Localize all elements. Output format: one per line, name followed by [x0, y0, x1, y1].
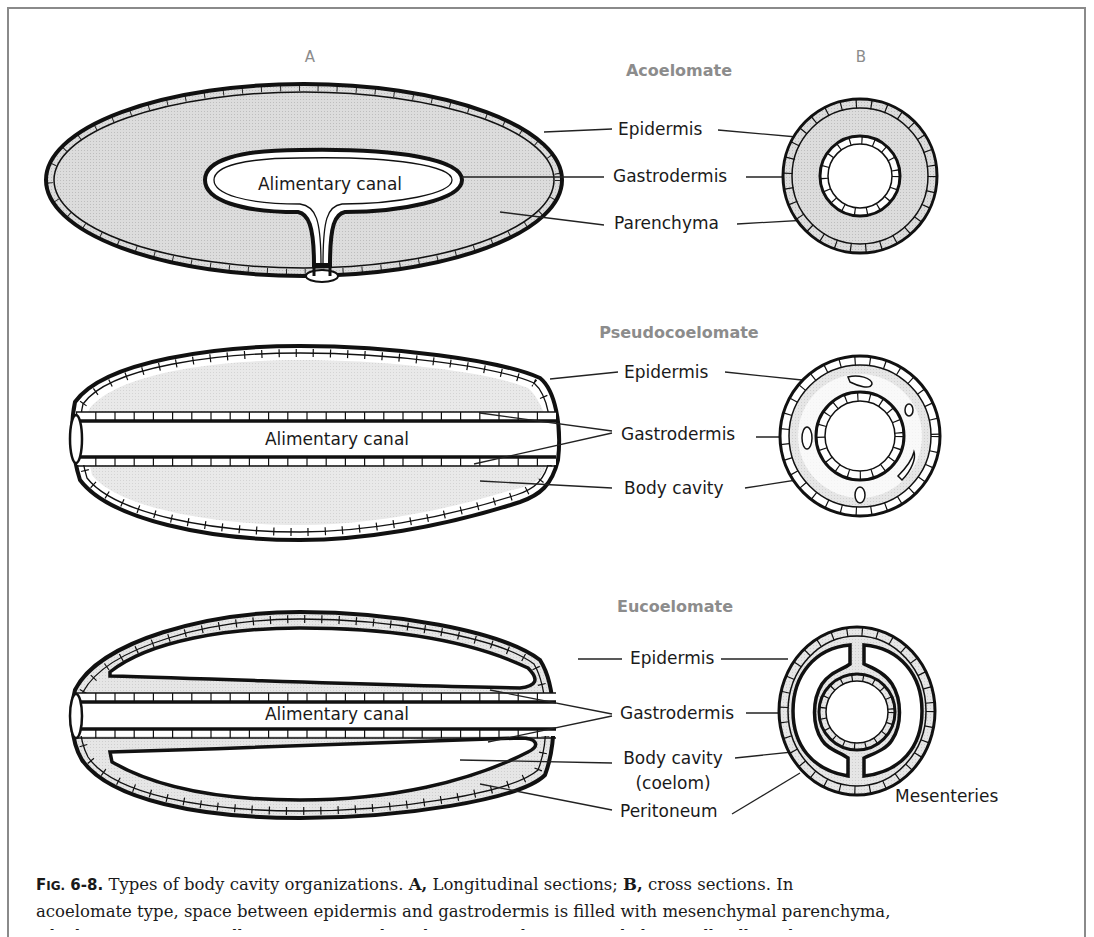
- figure-caption: FIG. 6-8. Types of body cavity organizat…: [36, 872, 1066, 930]
- section-title-eucoelomate: Eucoelomate: [617, 597, 733, 616]
- section-title-pseudocoelomate: Pseudocoelomate: [599, 323, 759, 342]
- label-gastrodermis-pseudocoelomate: Gastrodermis: [621, 424, 735, 444]
- caption-text-2: Longitudinal sections;: [427, 875, 623, 894]
- label-epidermis-acoelomate: Epidermis: [618, 119, 702, 139]
- label-body-cavity-pseudocoelomate: Body cavity: [624, 478, 724, 498]
- label-alimentary-canal-acoelomate: Alimentary canal: [258, 174, 402, 194]
- caption-line-3-partial: which may contain small spaces in some b…: [36, 924, 1066, 930]
- label-epidermis-eucoelomate: Epidermis: [630, 648, 714, 668]
- acoelomate-section: Acoelomate Alimentary canal Epidermis Ga…: [46, 61, 937, 282]
- fig-prefix: F: [36, 876, 46, 894]
- label-alimentary-canal-pseudocoelomate: Alimentary canal: [265, 429, 409, 449]
- acoelomate-longitudinal: Alimentary canal: [46, 84, 562, 282]
- label-coelom-eucoelomate: (coelom): [635, 773, 710, 793]
- label-epidermis-pseudocoelomate: Epidermis: [624, 362, 708, 382]
- eucoelomate-cross-section: [779, 627, 935, 795]
- panel-label-b: B: [856, 48, 866, 66]
- caption-text-1: Types of body cavity organizations.: [103, 875, 408, 894]
- acoelomate-cross-section: [783, 99, 937, 253]
- caption-line-1: FIG. 6-8. Types of body cavity organizat…: [36, 872, 1066, 899]
- pseudocoelomate-section: Pseudocoelomate Alimentary canal Epiderm…: [70, 323, 940, 540]
- eucoelomate-longitudinal: Alimentary canal: [70, 612, 556, 818]
- fig-number: 6-8.: [65, 876, 103, 894]
- pseudocoelomate-longitudinal: Alimentary canal: [70, 346, 559, 540]
- caption-b-label: B,: [623, 875, 643, 894]
- label-gastrodermis-acoelomate: Gastrodermis: [613, 166, 727, 186]
- caption-line-2: acoelomate type, space between epidermis…: [36, 899, 1066, 924]
- label-peritoneum-eucoelomate: Peritoneum: [620, 801, 717, 821]
- panel-label-a: A: [305, 48, 316, 66]
- label-gastrodermis-eucoelomate: Gastrodermis: [620, 703, 734, 723]
- caption-text-3: cross sections. In: [643, 875, 794, 894]
- eucoelomate-section: Eucoelomate Alimentary canal Epidermis: [70, 597, 999, 821]
- label-alimentary-canal-eucoelomate: Alimentary canal: [265, 704, 409, 724]
- label-body-cavity-eucoelomate: Body cavity: [623, 748, 723, 768]
- caption-a-label: A,: [409, 875, 428, 894]
- figure-number: FIG. 6-8.: [36, 876, 103, 894]
- label-mesenteries-eucoelomate: Mesenteries: [895, 786, 999, 806]
- section-title-acoelomate: Acoelomate: [626, 61, 732, 80]
- pseudocoelomate-cross-section: [780, 356, 940, 516]
- fig-prefix-small: IG.: [46, 879, 65, 893]
- label-parenchyma-acoelomate: Parenchyma: [614, 213, 719, 233]
